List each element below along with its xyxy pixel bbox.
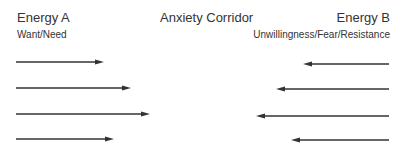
right-pointing-arrow-icon	[16, 86, 131, 91]
right-pointing-arrow-icon	[16, 60, 104, 65]
right-pointing-arrow-icon	[16, 112, 150, 117]
left-pointing-arrow-icon	[291, 138, 389, 143]
left-pointing-arrow-icon	[256, 114, 389, 119]
left-pointing-arrow-icon	[276, 87, 389, 92]
arrows-layer	[0, 0, 408, 152]
left-pointing-arrow-icon	[303, 62, 389, 67]
right-pointing-arrow-icon	[16, 137, 114, 142]
